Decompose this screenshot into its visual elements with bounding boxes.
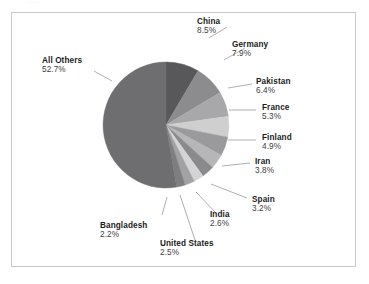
pie-label-bangladesh: Bangladesh 2.2% xyxy=(100,222,147,240)
leader-line-iran xyxy=(222,163,250,166)
pie-slices-group xyxy=(103,62,229,188)
pie-label-united-states-value: 2.5% xyxy=(160,249,214,258)
leader-line-bangladesh xyxy=(162,197,167,215)
leader-line-spain xyxy=(211,184,247,198)
leader-line-pakistan xyxy=(228,84,252,88)
pie-label-france-value: 5.3% xyxy=(262,113,289,122)
pie-label-india: India 2.6% xyxy=(210,211,230,229)
pie-label-finland-value: 4.9% xyxy=(262,143,292,152)
pie-label-pakistan-value: 6.4% xyxy=(256,87,290,96)
pie-label-iran-value: 3.8% xyxy=(255,167,274,176)
pie-label-iran: Iran 3.8% xyxy=(255,158,274,176)
leader-line-all-others xyxy=(94,71,112,81)
leader-line-united-states xyxy=(180,195,195,240)
leader-line-india xyxy=(196,192,215,212)
pie-label-france: France 5.3% xyxy=(262,104,289,122)
pie-label-india-value: 2.6% xyxy=(210,220,230,229)
pie-chart-figure: ...... China 8.5% Germany 7.9% Pakistan … xyxy=(0,0,369,284)
pie-label-china-value: 8.5% xyxy=(197,27,220,36)
pie-label-all-others: All Others 52.7% xyxy=(42,57,82,75)
pie-label-finland: Finland 4.9% xyxy=(262,134,292,152)
pie-label-spain: Spain 3.2% xyxy=(252,196,275,214)
pie-label-germany: Germany 7.9% xyxy=(232,41,268,59)
pie-label-china: China 8.5% xyxy=(197,18,220,36)
pie-slice-all-others xyxy=(103,62,177,188)
pie-label-germany-value: 7.9% xyxy=(232,50,268,59)
pie-label-spain-value: 3.2% xyxy=(252,205,275,214)
pie-label-united-states: United States 2.5% xyxy=(160,240,214,258)
pie-label-all-others-value: 52.7% xyxy=(42,66,82,75)
pie-label-pakistan: Pakistan 6.4% xyxy=(256,78,290,96)
pie-label-bangladesh-value: 2.2% xyxy=(100,231,147,240)
